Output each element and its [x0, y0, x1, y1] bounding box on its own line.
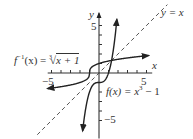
finv-radicand: x + 1 — [56, 53, 79, 66]
yx-text: y = x — [161, 6, 184, 18]
inverse-function-label: f−1(x) = 3√x + 1 — [14, 54, 79, 66]
curves — [37, 5, 167, 135]
x-axis-label: x — [152, 60, 157, 71]
identity-line — [37, 5, 167, 135]
finv-sup: −1 — [17, 53, 24, 61]
identity-line-label: y = x — [161, 7, 184, 18]
finv-mid: (x) = — [25, 54, 50, 66]
tick-label-xneg5: −5 — [42, 76, 54, 87]
y-axis-label: y — [89, 9, 94, 20]
tick-label-y5: 5 — [91, 21, 97, 32]
tick-label-yneg5: −5 — [104, 114, 116, 125]
f-left: f(x) = x — [106, 85, 139, 97]
axes — [48, 13, 153, 138]
f-right: − 1 — [143, 85, 160, 97]
function-label: f(x) = x3 − 1 — [106, 85, 160, 97]
